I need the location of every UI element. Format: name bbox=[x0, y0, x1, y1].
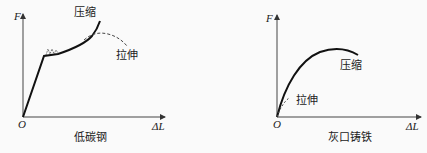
left-compression-curve bbox=[23, 21, 100, 117]
right-title: 灰口铸铁 bbox=[328, 128, 372, 144]
left-origin-label: O bbox=[18, 118, 26, 130]
right-tension-label: 拉伸 bbox=[296, 91, 318, 107]
left-axes bbox=[23, 14, 165, 117]
left-compression-label: 压缩 bbox=[74, 3, 96, 19]
right-origin-label: O bbox=[273, 118, 281, 130]
left-y-axis-label: F bbox=[14, 10, 21, 22]
left-tension-label: 拉伸 bbox=[116, 46, 138, 62]
right-x-axis-label: ΔL bbox=[406, 120, 419, 132]
right-compression-label: 压缩 bbox=[340, 56, 362, 72]
left-x-axis-label: ΔL bbox=[152, 120, 165, 132]
left-tension-curve bbox=[84, 33, 127, 46]
left-title: 低碳钢 bbox=[74, 128, 107, 144]
right-y-axis-label: F bbox=[266, 12, 273, 24]
